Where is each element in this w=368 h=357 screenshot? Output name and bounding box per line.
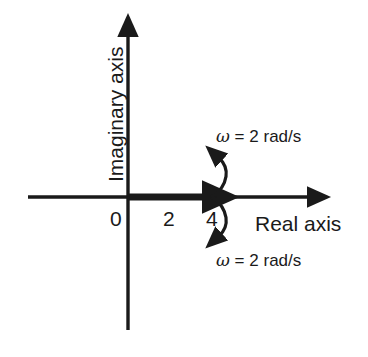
- omega-operator-lower: =: [235, 251, 245, 270]
- omega-symbol-upper: ω: [216, 126, 230, 146]
- omega-units-upper: rad/s: [263, 127, 301, 146]
- omega-symbol-lower: ω: [216, 250, 230, 270]
- plot-canvas: [0, 0, 368, 357]
- omega-value-lower: 2: [249, 251, 258, 270]
- omega-label-lower: ω = 2 rad/s: [216, 252, 301, 269]
- omega-value-upper: 2: [249, 127, 258, 146]
- omega-operator-upper: =: [235, 127, 245, 146]
- real-axis-title: Real axis: [255, 213, 341, 234]
- omega-label-upper: ω = 2 rad/s: [216, 128, 301, 145]
- omega-units-lower: rad/s: [263, 251, 301, 270]
- imaginary-axis-title: Imaginary axis: [105, 47, 126, 182]
- tick-label-4: 4: [206, 208, 218, 229]
- tick-label-2: 2: [163, 208, 175, 229]
- breakaway-arrow-up: [212, 158, 226, 198]
- tick-label-0: 0: [110, 208, 122, 229]
- complex-plane-figure: 0 2 4 Real axis Imaginary axis ω = 2 rad…: [0, 0, 368, 357]
